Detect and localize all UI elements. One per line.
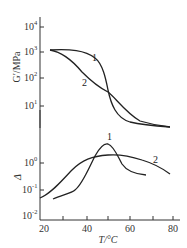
dma-chart: 104 103 102 101 G′/MPa 1 2 100 10-1 10-2… <box>0 0 187 248</box>
upper-y-tick-label: 102 <box>24 70 37 83</box>
upper-y-tick-label: 104 <box>24 19 38 32</box>
x-tick-label: 20 <box>39 223 49 234</box>
x-tick-label: 60 <box>125 223 135 234</box>
upper-y-tick-label: 103 <box>24 44 37 57</box>
lower-y-tick-label: 10-2 <box>22 208 37 221</box>
upper-curve-label-1: 1 <box>92 52 97 63</box>
upper-y-axis-title: G′/MPa <box>11 51 22 83</box>
lower-curve-label-2: 2 <box>153 154 158 165</box>
lower-y-axis-title: Δ <box>12 174 23 181</box>
lower-curve-2 <box>40 155 170 198</box>
lower-curve-label-1: 1 <box>107 131 112 142</box>
upper-curve-2 <box>50 50 170 127</box>
x-tick-label: 80 <box>168 223 178 234</box>
upper-y-tick-label: 101 <box>24 98 37 111</box>
upper-curve-label-2: 2 <box>82 77 87 88</box>
x-axis-title: T/°C <box>98 234 117 245</box>
x-tick-label: 40 <box>82 223 92 234</box>
lower-plot: 100 10-1 10-2 Δ 20 40 60 80 T/°C 1 2 <box>12 110 180 245</box>
upper-curve-1 <box>50 50 170 127</box>
lower-y-tick-label: 10-1 <box>22 182 37 195</box>
upper-plot: 104 103 102 101 G′/MPa 1 2 <box>11 17 170 128</box>
lower-curve-1 <box>53 144 146 199</box>
lower-y-tick-label: 100 <box>24 155 37 168</box>
